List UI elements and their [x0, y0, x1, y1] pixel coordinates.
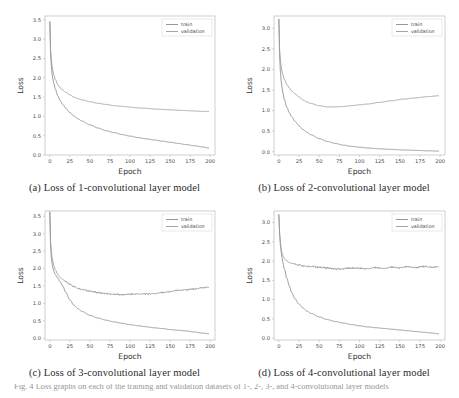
figure-footer: Fig. 4 Loss graphs on each of the traini… [0, 384, 459, 398]
x-tick-label: 0 [48, 343, 51, 349]
panel-caption-b: (b) Loss of 2-convolutional layer model [229, 182, 459, 193]
x-tick-label: 75 [107, 343, 114, 349]
y-tick-label: 1.5 [33, 94, 41, 100]
panel-caption-c: (c) Loss of 3-convolutional layer model [0, 367, 229, 378]
plot-area-c: 02550751001251501752000.00.51.01.52.02.5… [0, 195, 229, 382]
legend-entry-validation-label: validation [181, 224, 205, 229]
y-tick-label: 2.5 [33, 248, 41, 254]
x-tick-label: 50 [87, 158, 94, 164]
x-tick-label: 125 [145, 343, 155, 349]
x-axis-title: Epoch [118, 352, 141, 361]
plot-area-d: 02550751001251501752000.00.51.01.52.02.5… [229, 195, 459, 382]
y-tick-label: 0.5 [262, 316, 270, 322]
x-tick-label: 75 [107, 158, 114, 164]
y-tick-label: 2.5 [262, 46, 270, 52]
curve-train [50, 22, 209, 148]
y-tick-label: 2.0 [262, 258, 270, 264]
loss-chart-a: 02550751001251501752000.00.51.01.52.02.5… [0, 0, 229, 195]
legend-entry-validation-label: validation [411, 224, 435, 229]
panel-caption-d: (d) Loss of 4-convolutional layer model [229, 367, 459, 378]
chart-panel-c: 02550751001251501752000.00.51.01.52.02.5… [0, 195, 229, 382]
x-axis-title: Epoch [118, 167, 141, 176]
y-tick-label: 3.0 [262, 25, 270, 31]
y-tick-label: 0.5 [33, 318, 41, 324]
x-tick-label: 100 [355, 343, 365, 349]
y-tick-label: 2.0 [33, 265, 41, 271]
y-tick-label: 3.5 [33, 17, 41, 23]
x-axis-title: Epoch [348, 352, 371, 361]
legend-entry-validation-label: validation [411, 29, 435, 34]
y-tick-label: 2.5 [33, 55, 41, 61]
x-tick-label: 125 [145, 158, 155, 164]
figure-footer-caption: Fig. 4 Loss graphs on each of the traini… [14, 384, 389, 391]
y-tick-label: 2.5 [262, 239, 270, 245]
y-axis-title: Loss [16, 77, 25, 94]
x-tick-label: 50 [87, 343, 94, 349]
x-tick-label: 200 [435, 343, 445, 349]
y-tick-label: 0.0 [33, 152, 41, 158]
plot-area-b: 02550751001251501752000.00.51.01.52.02.5… [229, 0, 459, 195]
loss-chart-d: 02550751001251501752000.00.51.01.52.02.5… [229, 195, 459, 382]
x-tick-label: 75 [336, 158, 343, 164]
y-tick-label: 3.0 [33, 36, 41, 42]
x-tick-label: 0 [48, 158, 51, 164]
y-tick-label: 1.5 [33, 283, 41, 289]
plot-frame [274, 16, 445, 155]
legend-entry-train-label: train [181, 217, 192, 222]
x-tick-label: 175 [415, 343, 425, 349]
x-tick-label: 175 [185, 158, 195, 164]
x-tick-label: 200 [205, 343, 215, 349]
x-tick-label: 100 [355, 158, 365, 164]
y-axis-title: Loss [245, 267, 254, 284]
chart-panel-a: 02550751001251501752000.00.51.01.52.02.5… [0, 0, 229, 195]
x-axis-title: Epoch [348, 167, 371, 176]
y-tick-label: 0.5 [33, 133, 41, 139]
x-tick-label: 150 [395, 343, 405, 349]
x-tick-label: 25 [296, 343, 303, 349]
chart-panel-b: 02550751001251501752000.00.51.01.52.02.5… [229, 0, 459, 195]
y-axis-title: Loss [245, 77, 254, 94]
y-tick-label: 1.5 [262, 277, 270, 283]
y-tick-label: 2.0 [33, 75, 41, 81]
x-tick-label: 25 [296, 158, 303, 164]
x-tick-label: 50 [316, 158, 323, 164]
y-tick-label: 2.0 [262, 66, 270, 72]
legend-entry-train-label: train [411, 217, 422, 222]
x-tick-label: 75 [336, 343, 343, 349]
y-tick-label: 1.0 [262, 107, 270, 113]
plot-area-a: 02550751001251501752000.00.51.01.52.02.5… [0, 0, 229, 195]
x-tick-label: 200 [205, 158, 215, 164]
chart-panel-d: 02550751001251501752000.00.51.01.52.02.5… [229, 195, 459, 382]
y-tick-label: 1.5 [262, 87, 270, 93]
x-tick-label: 150 [165, 158, 175, 164]
curve-train [279, 215, 439, 334]
x-tick-label: 0 [277, 343, 280, 349]
y-tick-label: 0.5 [262, 128, 270, 134]
x-tick-label: 175 [415, 158, 425, 164]
legend-entry-validation-label: validation [181, 29, 205, 34]
x-tick-label: 0 [277, 158, 280, 164]
y-tick-label: 3.0 [33, 231, 41, 237]
x-tick-label: 200 [435, 158, 445, 164]
panel-caption-a: (a) Loss of 1-convolutional layer model [0, 182, 229, 193]
loss-chart-b: 02550751001251501752000.00.51.01.52.02.5… [229, 0, 459, 195]
curve-train [279, 19, 439, 151]
x-tick-label: 25 [67, 158, 74, 164]
y-tick-label: 1.0 [262, 296, 270, 302]
y-tick-label: 0.0 [33, 335, 41, 341]
y-tick-label: 3.5 [33, 213, 41, 219]
x-tick-label: 100 [125, 158, 135, 164]
x-tick-label: 175 [185, 343, 195, 349]
y-tick-label: 0.0 [262, 335, 270, 341]
x-tick-label: 25 [67, 343, 74, 349]
x-tick-label: 125 [375, 343, 385, 349]
y-tick-label: 1.0 [33, 113, 41, 119]
y-tick-label: 3.0 [262, 219, 270, 225]
x-tick-label: 50 [316, 343, 323, 349]
x-tick-label: 150 [165, 343, 175, 349]
figure-panel-grid: 02550751001251501752000.00.51.01.52.02.5… [0, 0, 459, 382]
y-axis-title: Loss [16, 267, 25, 284]
plot-frame [45, 16, 215, 155]
legend-entry-train-label: train [181, 22, 192, 27]
x-tick-label: 100 [125, 343, 135, 349]
